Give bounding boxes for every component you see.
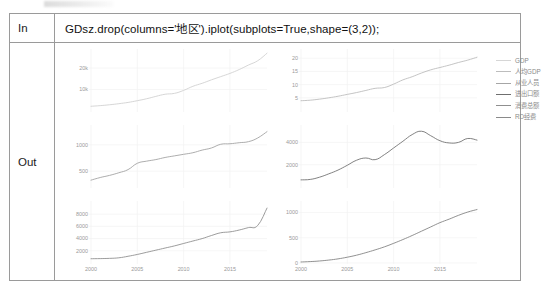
legend-swatch-icon [496,117,511,118]
y-axis-tick-label: 2000 [76,248,88,254]
y-axis-tick-label: 20 [292,55,298,61]
x-axis-tick-label: 2010 [178,266,190,272]
legend-item[interactable]: RD经费 [496,111,554,122]
legend-item[interactable]: 人均GDP [496,66,554,77]
chart-svg-gdp: 10k20k [61,47,271,123]
x-axis-tick-label: 2005 [341,266,353,272]
chart-svg-employees: 5001000 [61,123,271,199]
x-axis-tick-label: 2010 [388,266,400,272]
x-axis-tick-label: 2015 [224,266,236,272]
chart-panel-employees: 5001000 [61,123,271,199]
subplot-grid: 10k20k 5101520 5001000 20004000 20004000… [61,47,481,275]
output-gutter-label: Out [10,43,55,280]
chart-svg-consumption: 20004000600080002000200520102015 [61,199,271,275]
legend-item-label: 消费总额 [515,103,539,109]
y-axis-tick-label: 20k [79,65,88,71]
plot-output-cell: 10k20k 5101520 5001000 20004000 20004000… [55,43,520,280]
chart-panel-gdp: 10k20k [61,47,271,123]
legend-swatch-icon [496,60,511,61]
chart-svg-rd-funding: 050010002000200520102015 [271,199,481,275]
legend-swatch-icon [496,83,511,84]
legend-item[interactable]: GDP [496,55,554,66]
chart-panel-consumption: 20004000600080002000200520102015 [61,199,271,275]
legend-item[interactable]: 消费总额 [496,100,554,111]
legend-item[interactable]: 从业人员 [496,78,554,89]
x-axis-tick-label: 2005 [131,266,143,272]
chart-line-employees [91,132,267,181]
x-axis-tick-label: 2000 [85,266,97,272]
chart-line-gdp [91,53,267,106]
output-row: Out 10k20k 5101520 5001000 20004000 [10,43,520,280]
legend-item-label: 进出口额 [515,91,539,97]
chart-panel-rd-funding: 050010002000200520102015 [271,199,481,275]
legend-item-label: 从业人员 [515,80,539,86]
y-axis-tick-label: 500 [79,168,88,174]
x-axis-tick-label: 2015 [434,266,446,272]
code-input-cell[interactable]: GDsz.drop(columns='地区').iplot(subplots=T… [55,14,520,42]
chart-panel-per-capita-gdp: 5101520 [271,47,481,123]
y-axis-tick-label: 1000 [76,142,88,148]
x-axis-tick-label: 2000 [295,266,307,272]
chart-line-per-capita-gdp [301,57,477,101]
chart-legend: GDP人均GDP从业人员进出口额消费总额RD经费 [496,55,554,123]
legend-swatch-icon [496,71,511,72]
scan-artifact [44,1,114,7]
chart-line-rd-funding [301,210,477,262]
legend-item[interactable]: 进出口额 [496,89,554,100]
y-axis-tick-label: 15 [292,68,298,74]
y-axis-tick-label: 4000 [286,139,298,145]
input-row: In GDsz.drop(columns='地区').iplot(subplot… [10,14,520,43]
y-axis-tick-label: 6000 [76,223,88,229]
chart-line-import-export [301,131,477,180]
legend-item-label: 人均GDP [515,69,541,75]
chart-panel-import-export: 20004000 [271,123,481,199]
y-axis-tick-label: 10 [292,82,298,88]
y-axis-tick-label: 8000 [76,211,88,217]
chart-svg-per-capita-gdp: 5101520 [271,47,481,123]
legend-swatch-icon [496,94,511,95]
y-axis-tick-label: 10k [79,86,88,92]
y-axis-tick-label: 1000 [286,209,298,215]
y-axis-tick-label: 4000 [76,235,88,241]
legend-item-label: GDP [515,58,529,64]
chart-svg-import-export: 20004000 [271,123,481,199]
legend-item-label: RD经费 [515,114,536,120]
legend-swatch-icon [496,105,511,106]
y-axis-tick-label: 500 [289,235,298,241]
input-gutter-label: In [10,14,55,42]
y-axis-tick-label: 5 [295,95,298,101]
notebook-cell-table: In GDsz.drop(columns='地区').iplot(subplot… [9,13,521,281]
y-axis-tick-label: 2000 [286,162,298,168]
subplot-figure: 10k20k 5101520 5001000 20004000 20004000… [55,43,520,280]
